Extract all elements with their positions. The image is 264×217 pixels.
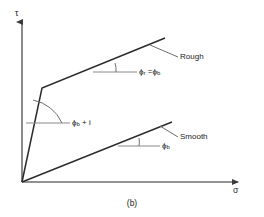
x-axis-label: σ	[233, 186, 238, 195]
rough-leader-line	[150, 45, 178, 57]
y-axis-label: τ	[15, 9, 18, 18]
basic-angle-subscript: b	[166, 144, 169, 150]
smooth-leader-line	[160, 126, 178, 137]
smooth-curve-label: Smooth	[180, 133, 208, 141]
rough-curve	[22, 38, 165, 182]
residual-angle-arc	[115, 63, 116, 72]
plot-canvas	[0, 0, 264, 217]
smooth-curve	[22, 122, 172, 182]
peak-angle-tail: + i	[80, 118, 91, 127]
figure-caption: (b)	[0, 198, 264, 208]
shear-strength-figure: τ σ Rough Smooth ϕb + i ϕr =ϕb ϕb (b)	[0, 0, 264, 217]
residual-angle-subscript-b: b	[157, 70, 160, 76]
residual-angle-label: ϕr =ϕb	[139, 68, 160, 76]
rough-curve-label: Rough	[180, 53, 204, 61]
basic-angle-label: ϕb	[162, 142, 170, 150]
peak-angle-label: ϕb + i	[72, 119, 91, 127]
